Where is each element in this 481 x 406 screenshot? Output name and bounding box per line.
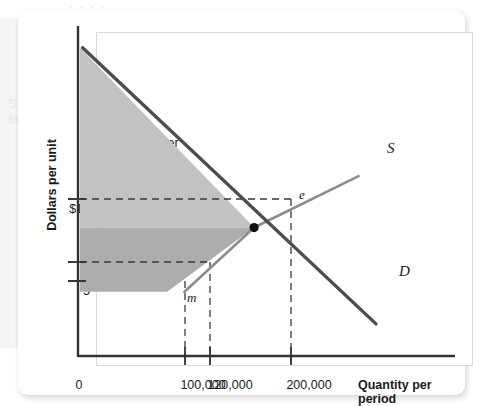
producer-surplus-area [80, 228, 254, 292]
figure-canvas: . . . . SURPLUS MARKET Dollars per unit … [0, 0, 481, 406]
equilibrium-point-marker [250, 223, 259, 232]
chart-graphics [0, 0, 481, 406]
consumer-surplus-area [80, 48, 254, 228]
